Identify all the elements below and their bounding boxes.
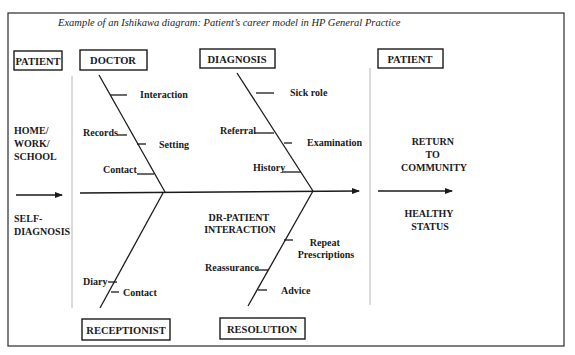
cause-contact-receptionist: Contact	[123, 287, 158, 298]
resolution-label: RESOLUTION	[227, 324, 297, 335]
cause-reassurance: Reassurance	[205, 262, 259, 273]
doctor-label: DOCTOR	[90, 55, 136, 66]
self-diagnosis-text: SELF- DIAGNOSIS	[14, 213, 71, 237]
cause-contact-doctor: Contact	[103, 164, 138, 175]
healthy-status-text: HEALTHY STATUS	[404, 208, 455, 232]
cause-records: Records	[83, 127, 118, 138]
patient-right-label: PATIENT	[387, 54, 432, 65]
center-label: DR-PATIENT INTERACTION	[204, 212, 276, 235]
cause-sick-role: Sick role	[290, 87, 328, 98]
patient-left-label: PATIENT	[15, 56, 60, 67]
receptionist-label: RECEPTIONIST	[86, 325, 165, 336]
cause-history: History	[253, 162, 285, 173]
home-work-school-text: HOME/ WORK/ SCHOOL	[14, 125, 57, 162]
cause-repeat-prescriptions: Repeat Prescriptions	[298, 237, 355, 260]
cause-interaction: Interaction	[140, 89, 188, 100]
ishikawa-diagram: Example of an Ishikawa diagram: Patient’…	[0, 0, 575, 355]
cause-referral: Referral	[220, 125, 256, 136]
return-to-community-text: RETURN TO COMMUNITY	[401, 136, 468, 173]
cause-diary: Diary	[83, 276, 107, 287]
spine-arrow	[80, 191, 359, 193]
diagnosis-label: DIAGNOSIS	[208, 54, 267, 65]
cause-setting: Setting	[159, 139, 189, 150]
cause-advice: Advice	[281, 285, 311, 296]
diagram-title: Example of an Ishikawa diagram: Patient’…	[57, 17, 401, 28]
cause-examination: Examination	[307, 137, 362, 148]
